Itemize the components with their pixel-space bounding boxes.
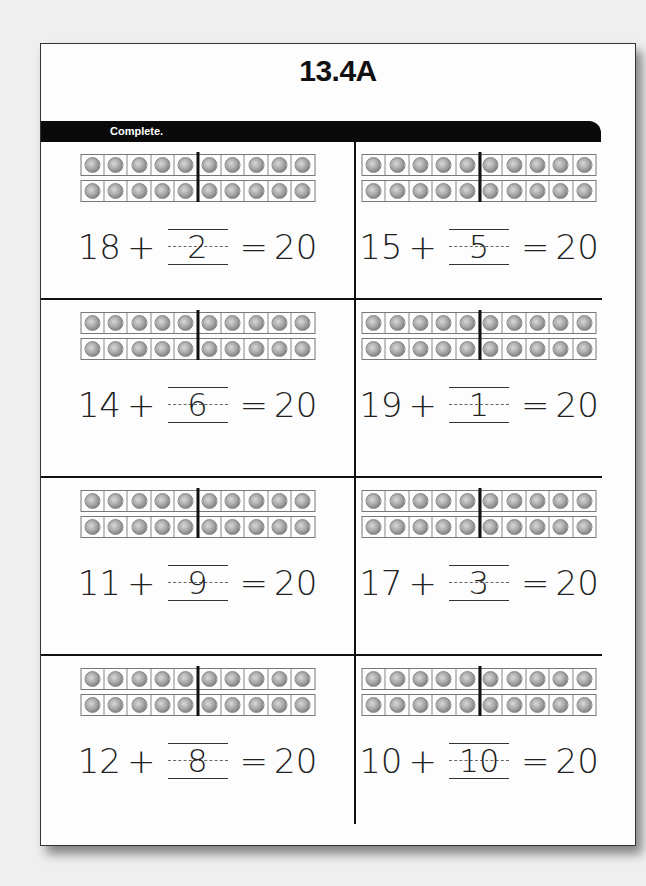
coin-icon [248,493,264,509]
double-ten-frame [362,490,597,542]
answer-blank[interactable]: 10 [449,743,509,779]
answer-blank[interactable]: 6 [168,387,228,423]
ten-frame-slot [221,313,244,333]
sum: 20 [274,227,317,267]
ten-frame-slot [363,339,386,359]
ten-frame-slot [128,491,151,511]
coin-icon [271,157,287,173]
ten-frame-slot [409,339,432,359]
coin-icon [530,519,546,535]
ten-frame-slot [104,339,127,359]
coin-icon [389,671,405,687]
coin-icon [271,183,287,199]
coin-icon [84,315,100,331]
worksheet-title: 13.4A [41,54,635,88]
answer-blank[interactable]: 2 [168,229,228,265]
addend: 10 [359,741,402,781]
sum: 20 [274,563,317,603]
equals-sign: = [521,563,550,603]
ten-frame-slot [550,491,573,511]
answer-blank[interactable]: 8 [168,743,228,779]
ten-frame-slot [573,695,595,715]
ten-frame-slot [409,491,432,511]
ten-frame-slot [409,517,432,537]
double-ten-frame [362,154,597,206]
coin-icon [389,493,405,509]
equation: 14 + 6 = 20 [41,380,354,430]
coin-icon [483,671,499,687]
coin-icon [389,697,405,713]
double-ten-frame [362,668,597,720]
ten-frame-slot [503,491,526,511]
ten-frame-slot [526,491,549,511]
coin-icon [530,157,546,173]
coin-icon [154,493,170,509]
answer-blank[interactable]: 3 [449,565,509,601]
coin-icon [131,697,147,713]
ten-frame-slot [456,339,479,359]
coin-icon [413,671,429,687]
ten-frame-slot [409,695,432,715]
answer-value: 9 [187,565,207,601]
coin-icon [436,341,452,357]
ten-frame-slot [151,517,174,537]
coin-icon [530,315,546,331]
problem-cell: 14 + 6 = 20 [41,300,354,456]
addend: 15 [359,227,402,267]
coin-icon [84,697,100,713]
answer-value: 3 [469,565,489,601]
ten-frame-slot [573,517,595,537]
coin-icon [436,157,452,173]
answer-blank[interactable]: 1 [449,387,509,423]
ten-frame-slot [104,517,127,537]
coin-icon [436,519,452,535]
coin-icon [506,183,522,199]
ten-frame-slot [268,155,291,175]
answer-blank[interactable]: 9 [168,565,228,601]
equals-sign: = [521,385,550,425]
double-ten-frame [80,490,315,542]
ten-frame-slot [198,181,221,201]
coin-icon [389,315,405,331]
ten-frame-slot [198,313,221,333]
coin-icon [225,493,241,509]
ten-frame-slot [104,695,127,715]
coin-icon [553,341,569,357]
ten-frame-slot [573,491,595,511]
ten-frame-slot [433,313,456,333]
coin-icon [154,183,170,199]
problem-cell: 12 + 8 = 20 [41,656,354,812]
problem-cell: 17 + 3 = 20 [356,478,602,634]
problem-cell: 19 + 1 = 20 [356,300,602,456]
ten-frame-slot [151,339,174,359]
coin-icon [295,493,311,509]
ten-frame-slot [503,155,526,175]
ten-frame-slot [292,155,314,175]
ten-frame-slot [480,491,503,511]
ten-frame-slot [104,669,127,689]
equation: 18 + 2 = 20 [41,222,354,272]
ten-frame-slot [573,669,595,689]
double-ten-frame [80,154,315,206]
coin-icon [436,315,452,331]
answer-blank[interactable]: 5 [449,229,509,265]
double-ten-frame [80,668,315,720]
addend: 11 [78,563,121,603]
coin-icon [108,183,124,199]
addend: 19 [359,385,402,425]
answer-value: 8 [187,743,207,779]
ten-frame-slot [386,339,409,359]
coin-icon [225,671,241,687]
ten-frame-slot [456,695,479,715]
ten-frame-slot [128,181,151,201]
coin-icon [295,315,311,331]
coin-icon [271,671,287,687]
coin-icon [459,493,475,509]
coin-icon [201,493,217,509]
ten-frame-slot [81,155,104,175]
ten-frame-slot [550,313,573,333]
coin-icon [459,341,475,357]
coin-icon [201,183,217,199]
coin-icon [271,519,287,535]
coin-icon [506,671,522,687]
